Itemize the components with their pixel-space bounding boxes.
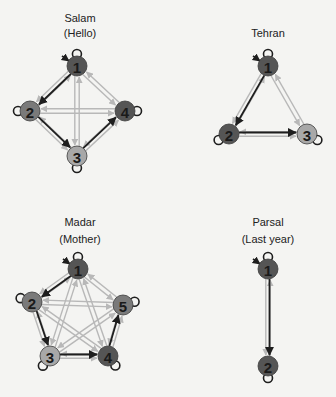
light-edge bbox=[275, 74, 304, 124]
light-edge bbox=[83, 74, 116, 105]
state-node-label: 1 bbox=[264, 262, 272, 279]
light-edge bbox=[36, 71, 68, 101]
light-edge bbox=[87, 72, 120, 103]
light-edge bbox=[40, 273, 69, 294]
light-edge bbox=[42, 305, 112, 307]
word-transition-diagrams: Salam (Hello) 1234 Tehran 123 Madar (Mot… bbox=[0, 0, 336, 397]
state-node-label: 1 bbox=[73, 59, 81, 76]
start-arrow-icon bbox=[63, 259, 70, 264]
state-node-label: 2 bbox=[225, 127, 233, 144]
light-edge bbox=[84, 279, 107, 346]
start-arrow-icon bbox=[62, 56, 69, 61]
state-node-label: 1 bbox=[264, 59, 272, 76]
light-edge bbox=[42, 307, 101, 349]
state-node-label: 2 bbox=[28, 295, 36, 312]
start-arrow-icon bbox=[253, 259, 260, 264]
state-node-label: 4 bbox=[104, 349, 113, 366]
diagram-subtitle: (Hello) bbox=[64, 27, 96, 39]
light-edge bbox=[88, 274, 117, 297]
diagram-title: Salam bbox=[64, 12, 95, 24]
dark-edge bbox=[38, 117, 70, 147]
state-node-label: 1 bbox=[74, 262, 82, 279]
node-group: 123 bbox=[214, 50, 322, 145]
state-node-label: 3 bbox=[73, 149, 81, 166]
dark-edge bbox=[236, 75, 265, 125]
diagram-tehran: Tehran 123 bbox=[214, 27, 322, 145]
diagram-parsal: Parsal (Last year) 12 bbox=[242, 216, 295, 383]
dark-edge bbox=[39, 74, 71, 104]
light-edge bbox=[233, 74, 262, 124]
state-node-label: 3 bbox=[46, 349, 54, 366]
light-edge bbox=[271, 76, 300, 126]
dark-edge bbox=[83, 117, 116, 148]
light-edge bbox=[36, 120, 68, 150]
diagram-salam: Salam (Hello) 1234 bbox=[14, 12, 142, 172]
state-node-label: 4 bbox=[121, 104, 130, 121]
edge-group bbox=[233, 74, 304, 137]
light-edge bbox=[43, 300, 113, 302]
state-node-label: 2 bbox=[26, 104, 34, 121]
light-edge bbox=[86, 120, 119, 151]
diagram-title: Madar bbox=[64, 216, 96, 228]
diagram-canvas: Salam (Hello) 1234 Tehran 123 Madar (Mot… bbox=[0, 0, 336, 397]
state-node-label: 2 bbox=[264, 359, 272, 376]
diagram-title: Parsal bbox=[252, 216, 283, 228]
diagram-subtitle: (Mother) bbox=[59, 233, 101, 245]
dark-edge bbox=[42, 276, 71, 297]
node-group: 1234 bbox=[14, 50, 142, 173]
node-group: 12345 bbox=[16, 253, 139, 371]
state-node-label: 3 bbox=[303, 127, 311, 144]
edge-group bbox=[36, 71, 120, 150]
diagram-title: Tehran bbox=[251, 27, 285, 39]
diagram-subtitle: (Last year) bbox=[242, 233, 295, 245]
diagram-madar: Madar (Mother) 12345 bbox=[16, 216, 139, 370]
state-node-label: 5 bbox=[119, 298, 127, 315]
light-edge bbox=[84, 277, 113, 300]
edge-group bbox=[33, 273, 122, 358]
start-arrow-icon bbox=[253, 56, 260, 61]
edge-group bbox=[266, 279, 270, 356]
